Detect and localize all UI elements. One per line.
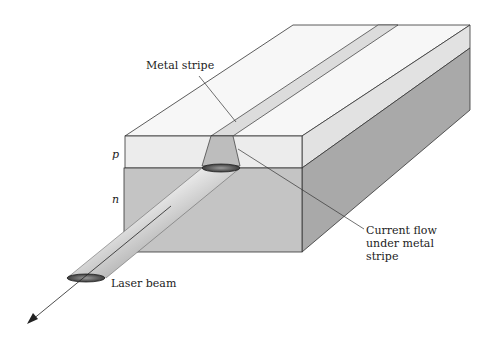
n-layer-label: n <box>112 193 119 206</box>
beam-direction-arrow <box>32 206 171 320</box>
laser-diagram: Metal stripe p n Current flow under meta… <box>0 0 491 341</box>
metal-stripe-label: Metal stripe <box>146 59 214 72</box>
current-flow-label-1: Current flow <box>366 224 437 237</box>
arrow-head-icon <box>27 313 38 324</box>
emission-spot <box>202 164 240 172</box>
current-flow-label-2: under metal <box>366 237 434 250</box>
p-layer-label: p <box>112 148 119 161</box>
laser-beam-label: Laser beam <box>111 277 177 290</box>
current-flow-label-3: stripe <box>366 250 398 263</box>
